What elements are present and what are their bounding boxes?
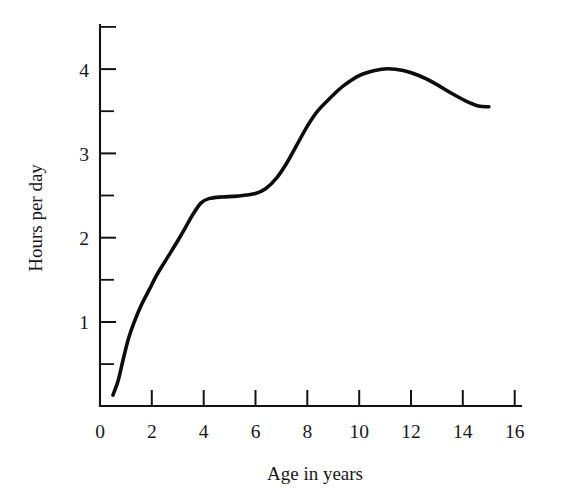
y-tick-label: 4 xyxy=(79,60,89,81)
y-tick-label: 3 xyxy=(79,144,89,165)
x-tick-label: 6 xyxy=(251,421,261,442)
y-tick-label: 2 xyxy=(79,228,89,249)
x-tick-label: 4 xyxy=(199,421,209,442)
x-axis-title: Age in years xyxy=(267,463,363,484)
x-tick-label: 2 xyxy=(147,421,157,442)
x-tick-label: 10 xyxy=(349,421,369,442)
y-axis-title: Hours per day xyxy=(25,164,46,272)
x-tick-label: 0 xyxy=(95,421,105,442)
x-tick-label: 8 xyxy=(302,421,312,442)
x-tick-label: 14 xyxy=(453,421,473,442)
line-chart: 4 3 2 1 0 2 4 6 8 10 12 14 16 Age in yea… xyxy=(0,0,572,501)
y-tick-label: 1 xyxy=(79,312,89,333)
x-tick-label: 12 xyxy=(401,421,421,442)
x-tick-label: 16 xyxy=(505,421,525,442)
chart-page: 4 3 2 1 0 2 4 6 8 10 12 14 16 Age in yea… xyxy=(0,0,572,501)
